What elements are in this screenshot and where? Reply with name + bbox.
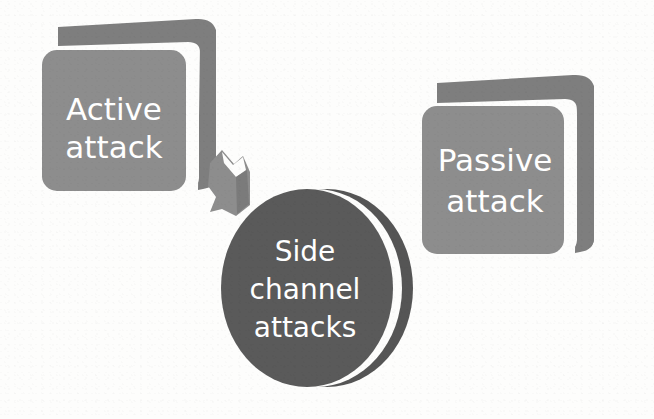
diagram-svg: Active attack Side channel attacks bbox=[0, 0, 654, 419]
node-active-attack[interactable]: Active attack bbox=[42, 19, 216, 191]
connector-active-to-side-channel[interactable] bbox=[208, 150, 250, 216]
passive-attack-label-line-1: Passive bbox=[438, 142, 553, 178]
passive-attack-label-line-2: attack bbox=[446, 183, 543, 219]
passive-attack-face bbox=[422, 106, 564, 254]
side-channel-label-line-3: attacks bbox=[254, 311, 356, 344]
arrow-shadow-edge bbox=[236, 170, 249, 214]
node-passive-attack[interactable]: Passive attack bbox=[422, 75, 594, 254]
node-side-channel-attacks[interactable]: Side channel attacks bbox=[221, 189, 413, 387]
side-channel-label-line-2: channel bbox=[250, 273, 361, 306]
active-attack-label-line-1: Active bbox=[66, 91, 162, 127]
diagram-canvas: Active attack Side channel attacks bbox=[0, 0, 654, 419]
passive-attack-side-flank bbox=[575, 87, 594, 253]
side-channel-label-line-1: Side bbox=[275, 235, 336, 268]
active-attack-label-line-2: attack bbox=[65, 129, 162, 165]
